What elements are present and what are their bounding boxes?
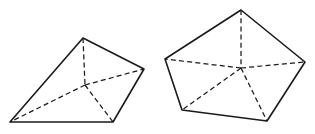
geometry-figure-canvas	[0, 0, 315, 134]
